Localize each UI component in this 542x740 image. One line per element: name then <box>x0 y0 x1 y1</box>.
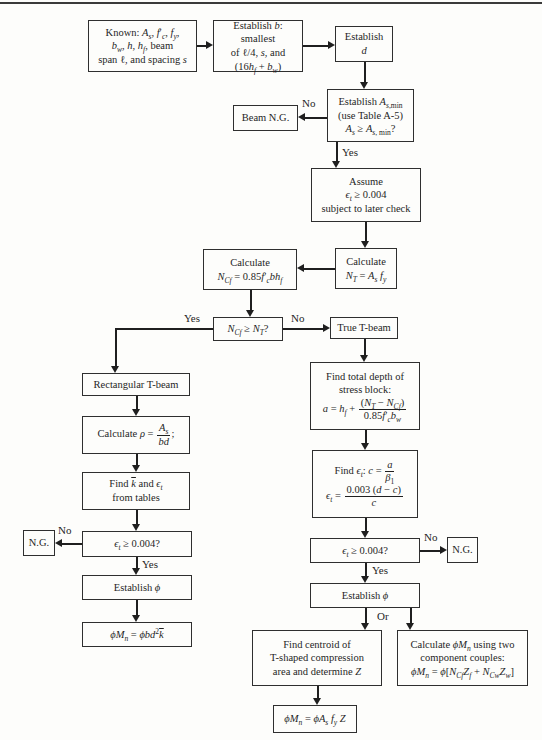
arrow-calc-ncf-to-decision-arrowhead <box>246 310 254 317</box>
node-calc-rho: Calculate ρ = Asbd; <box>82 416 190 454</box>
arrow-decision-yes-vertical <box>115 328 117 366</box>
node-phi-mn-final-text: ϕMn = ϕAs fy Z <box>274 711 356 727</box>
arrow-phi-left-to-phimn <box>136 600 138 615</box>
edge-label-yes-right-check: Yes <box>372 564 388 576</box>
node-strain-check-left-text: ϵt ≥ 0.004? <box>83 536 191 552</box>
arrow-rect-to-calc-rho-arrowhead <box>132 409 140 416</box>
edge-label-no-decision: No <box>291 312 304 324</box>
node-establish-phi-right: Establish ϕ <box>310 583 420 608</box>
arrow-calc-nt-to-calc-ncf-arrowhead <box>297 264 304 272</box>
edge-label-or: Or <box>377 610 389 622</box>
arrow-check-right-yes-to-phi-arrowhead <box>361 576 369 583</box>
arrow-as-min-yes-to-assume-arrowhead <box>332 161 340 168</box>
node-find-centroid-z-text: Find centroid ofT-shaped compressionarea… <box>253 637 381 680</box>
node-find-stress-block-depth-text: Find total depth ofstress block:a = hf +… <box>311 369 419 423</box>
node-establish-phi-left: Establish ϕ <box>82 575 192 600</box>
node-assume-strain: Assumeϵt ≥ 0.004subject to later check <box>311 168 421 222</box>
node-find-stress-block-depth: Find total depth ofstress block:a = hf +… <box>310 362 420 430</box>
arrow-known-to-establish-b-arrowhead <box>206 41 213 49</box>
node-establish-as-min-text: Establish As,min(use Table A-5)As ≥ As, … <box>328 94 413 137</box>
arrow-check-left-yes-to-phi <box>136 557 138 568</box>
arrow-rect-to-calc-rho <box>136 396 138 409</box>
node-calc-nt: CalculateNT = As fy <box>335 248 397 289</box>
node-calc-component-couples-text: Calculate ϕMn using twocomponent couples… <box>398 637 527 680</box>
arrow-phi-to-centroid <box>365 608 367 623</box>
node-establish-d-text: Establishd <box>336 29 392 58</box>
node-calc-nt-text: CalculateNT = As fy <box>336 254 396 283</box>
node-calc-component-couples: Calculate ϕMn using twocomponent couples… <box>397 630 528 686</box>
arrow-check-right-no-to-ng <box>420 550 440 552</box>
arrow-true-t-beam-to-stress-block-arrowhead <box>360 355 368 362</box>
arrow-known-to-establish-b <box>197 45 206 47</box>
arrow-decision-no-to-true-t-beam-arrowhead <box>323 324 330 332</box>
node-strain-check-right-text: ϵt ≥ 0.004? <box>311 543 419 559</box>
node-true-t-beam: True T-beam <box>330 317 398 339</box>
arrow-assume-to-calc-nt <box>365 222 367 241</box>
arrow-establish-b-to-establish-d-arrowhead <box>328 41 335 49</box>
edge-label-yes-left-check: Yes <box>142 558 158 570</box>
edge-label-no-as-min: No <box>302 97 315 109</box>
node-establish-b-text: Establish b: smallestof ℓ/4, s, and(16hf… <box>214 18 302 75</box>
arrow-assume-to-calc-nt-arrowhead <box>361 241 369 248</box>
arrow-calc-rho-to-kbar <box>136 454 138 465</box>
arrow-establish-b-to-establish-d <box>303 45 328 47</box>
arrow-centroid-to-final-arrowhead <box>313 698 321 705</box>
arrow-decision-yes-horizontal <box>115 328 213 330</box>
arrow-as-min-yes-to-assume <box>336 142 338 161</box>
arrow-check-right-yes-to-phi <box>365 563 367 576</box>
node-known-text: Known: As, f′c, fy,bw, h, hf, beamspan ℓ… <box>89 25 196 68</box>
node-ng-left-text: N.G. <box>24 535 54 551</box>
node-phi-mn-rect-text: ϕMn = ϕbd2k <box>83 627 191 643</box>
flowchart-canvas: Known: As, f′c, fy,bw, h, hf, beamspan ℓ… <box>0 0 542 740</box>
node-ncf-ge-nt-decision: NCf ≥ NT? <box>213 317 283 341</box>
node-ng-left: N.G. <box>23 530 55 556</box>
arrow-stress-block-to-find-strain-arrowhead <box>361 443 369 450</box>
node-true-t-beam-text: True T-beam <box>331 320 397 336</box>
node-establish-b: Establish b: smallestof ℓ/4, s, and(16hf… <box>213 20 303 72</box>
node-ng-right-text: N.G. <box>448 542 477 558</box>
page-top-rule <box>0 2 542 4</box>
node-ng-right: N.G. <box>447 537 478 563</box>
node-ncf-ge-nt-text: NCf ≥ NT? <box>214 321 282 337</box>
arrow-check-left-yes-to-phi-arrowhead <box>132 568 140 575</box>
arrow-check-left-no-to-ng-arrowhead <box>55 539 62 547</box>
arrow-calc-rho-to-kbar-arrowhead <box>132 465 140 472</box>
arrow-check-right-no-to-ng-arrowhead <box>440 546 447 554</box>
node-strain-check-left: ϵt ≥ 0.004? <box>82 531 192 557</box>
arrow-centroid-to-final <box>317 686 319 698</box>
arrow-calc-nt-to-calc-ncf <box>304 268 335 270</box>
arrow-stress-block-to-find-strain <box>365 430 367 443</box>
node-establish-phi-right-text: Establish ϕ <box>311 588 419 604</box>
node-beam-ng-text: Beam N.G. <box>234 110 297 126</box>
arrow-true-t-beam-to-stress-block <box>364 339 366 355</box>
edge-label-no-left-check: No <box>58 524 71 536</box>
edge-label-yes-as-min: Yes <box>342 146 358 158</box>
arrow-establish-d-to-as-min-arrowhead <box>360 82 368 89</box>
arrow-establish-d-to-as-min <box>364 62 366 82</box>
node-phi-mn-rect: ϕMn = ϕbd2k <box>82 622 192 647</box>
node-find-strain-c-text: Find ϵt: c = aβ1ϵt = 0.003 (d − c)c <box>313 458 417 510</box>
node-rectangular-t-beam-text: Rectangular T-beam <box>83 377 189 393</box>
arrow-decision-no-to-true-t-beam <box>283 328 323 330</box>
arrow-phi-left-to-phimn-arrowhead <box>132 615 140 622</box>
node-calc-rho-text: Calculate ρ = Asbd; <box>83 421 189 448</box>
arrow-kbar-to-check-left <box>136 510 138 524</box>
node-find-kbar-tables-text: Find k and ϵtfrom tables <box>83 476 189 505</box>
node-establish-d: Establishd <box>335 26 393 62</box>
node-beam-ng: Beam N.G. <box>233 105 298 131</box>
node-find-centroid-z: Find centroid ofT-shaped compressionarea… <box>252 630 382 686</box>
edge-label-yes-decision: Yes <box>184 312 200 324</box>
node-calc-ncf: CalculateNCf = 0.85f′cbhf <box>203 249 297 290</box>
arrow-phi-to-couples <box>410 608 412 623</box>
node-known: Known: As, f′c, fy,bw, h, hf, beamspan ℓ… <box>88 20 197 72</box>
node-rectangular-t-beam: Rectangular T-beam <box>82 373 190 396</box>
node-phi-mn-final: ϕMn = ϕAs fy Z <box>273 705 357 733</box>
arrow-check-left-no-to-ng <box>62 543 82 545</box>
arrow-decision-yes-arrowhead <box>111 366 119 373</box>
node-assume-strain-text: Assumeϵt ≥ 0.004subject to later check <box>312 174 420 217</box>
edge-label-no-right-check: No <box>424 531 437 543</box>
arrow-kbar-to-check-left-arrowhead <box>132 524 140 531</box>
arrow-calc-ncf-to-decision <box>250 290 252 310</box>
node-calc-ncf-text: CalculateNCf = 0.85f′cbhf <box>204 255 296 284</box>
arrow-phi-to-couples-arrowhead <box>406 623 414 630</box>
